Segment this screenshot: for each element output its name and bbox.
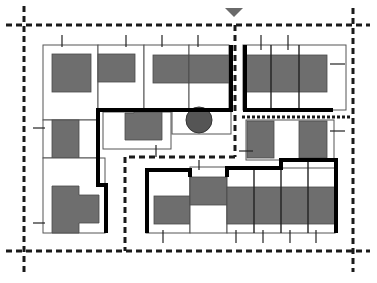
lot-group-center [103,107,231,157]
lot-group-bottom [146,160,335,243]
lot-group-top-right [243,35,346,110]
lot-group-left [33,120,105,233]
lot-group-middle-right [239,120,345,160]
north-marker-icon [225,8,243,17]
site-plan-diagram [0,0,377,283]
